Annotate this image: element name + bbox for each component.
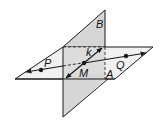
label-point-p: P [44,57,52,69]
label-plane-b: B [96,18,103,30]
label-point-m: M [79,67,89,79]
point-p [39,68,43,72]
point-q [124,54,128,58]
label-point-q: Q [116,59,125,71]
label-line-k: k [86,46,92,58]
label-plane-a: A [105,68,113,80]
intersecting-planes-diagram: B k P M Q A [0,0,163,126]
point-m [82,61,86,65]
diagram-canvas: B k P M Q A [0,0,163,126]
